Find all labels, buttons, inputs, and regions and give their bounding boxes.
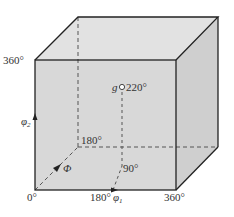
g-point-label: g [112,81,118,93]
g-point-marker [119,84,124,89]
phi2-max-label: 360° [3,54,24,66]
euler-space-cube-diagram: 360° φ2 180° Φ 90° g 220° 0° 180° φ1 360… [0,0,234,217]
phi-axis-label: Φ [63,162,72,174]
origin-label: 0° [27,191,37,203]
phi-inner-label: 90° [123,162,138,174]
g-value-label: 220° [126,81,147,93]
phi-mid-label: 180° [81,134,102,146]
phi1-max-label: 360° [164,191,185,203]
phi1-mid-label: 180° [90,191,111,203]
phi1-axis-label: φ1 [113,191,123,205]
phi2-axis-label: φ2 [21,115,31,129]
